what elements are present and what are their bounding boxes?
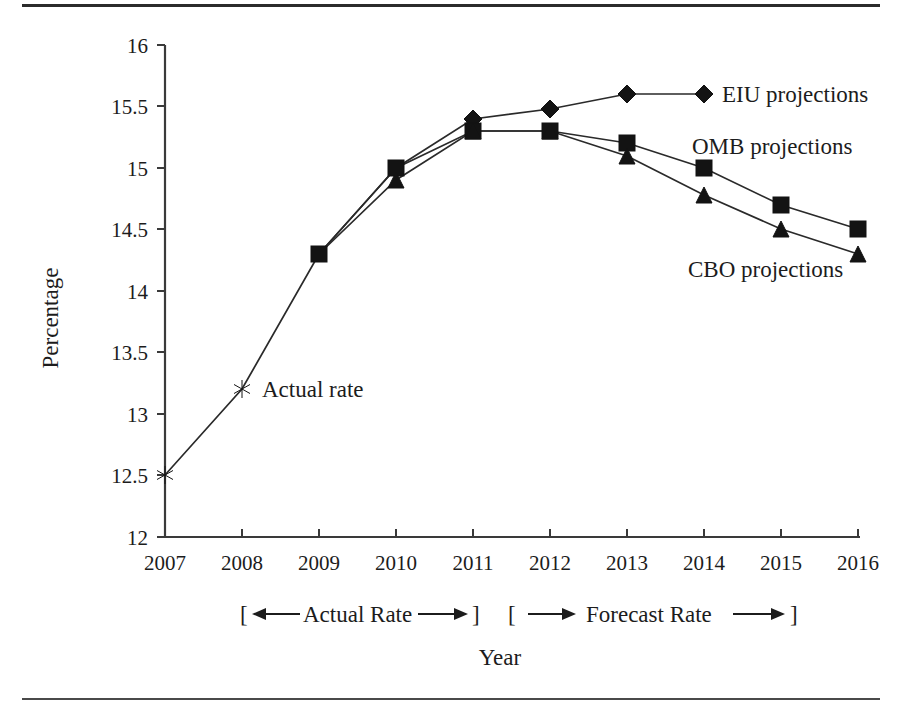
annotation-actual-open-bracket: [ — [240, 602, 248, 627]
figure-container: 16 15.5 15 14.5 14 13.5 13 12.5 12 2007 — [0, 0, 902, 713]
y-tick-label-16: 16 — [127, 34, 148, 58]
x-axis-title: Year — [479, 645, 522, 670]
series-line-eiu — [319, 94, 704, 254]
marker-diamond — [618, 85, 636, 103]
annotation-actual-rate-bracket: [ Actual Rate ] — [240, 602, 480, 627]
x-tick-label-2011: 2011 — [452, 551, 493, 575]
series-label-eiu: EIU projections — [722, 82, 868, 107]
y-tick-label-12: 12 — [127, 526, 148, 550]
y-axis-title: Percentage — [38, 268, 63, 369]
x-tick-label-2009: 2009 — [298, 551, 340, 575]
annotation-forecast-left-arrow-head — [562, 608, 576, 620]
marker-square — [850, 221, 866, 237]
x-tick-label-2007: 2007 — [144, 551, 186, 575]
x-tick-label-2012: 2012 — [529, 551, 571, 575]
annotation-forecast-right-arrow-head — [771, 608, 785, 620]
marker-square — [696, 160, 712, 176]
x-tick-label-2016: 2016 — [837, 551, 879, 575]
axes-group — [165, 45, 860, 537]
marker-square — [773, 197, 789, 213]
annotation-actual-label: Actual Rate — [303, 602, 412, 627]
line-chart: 16 15.5 15 14.5 14 13.5 13 12.5 12 2007 — [0, 0, 902, 713]
x-tick-marks — [165, 529, 858, 537]
x-tick-labels: 2007 2008 2009 2010 2011 2012 2013 2014 … — [144, 551, 879, 575]
annotation-actual-right-arrow-head — [454, 608, 468, 620]
y-tick-label-15.5: 15.5 — [111, 95, 148, 119]
series-label-omb: OMB projections — [692, 134, 852, 159]
x-tick-label-2010: 2010 — [375, 551, 417, 575]
annotation-forecast-rate-bracket: [ Forecast Rate ] — [508, 602, 798, 627]
y-tick-labels: 16 15.5 15 14.5 14 13.5 13 12.5 12 — [111, 34, 148, 550]
x-tick-label-2014: 2014 — [683, 551, 726, 575]
annotation-actual-left-arrow-head — [252, 608, 266, 620]
series-label-actual-rate: Actual rate — [262, 377, 364, 402]
marker-triangle — [696, 187, 712, 203]
x-tick-label-2015: 2015 — [760, 551, 802, 575]
y-tick-label-14: 14 — [127, 280, 149, 304]
y-tick-label-14.5: 14.5 — [111, 218, 148, 242]
y-tick-label-12.5: 12.5 — [111, 464, 148, 488]
marker-triangle — [773, 221, 789, 237]
annotation-actual-close-bracket: ] — [472, 602, 480, 627]
series-label-cbo: CBO projections — [688, 257, 843, 282]
markers-eiu — [464, 85, 713, 128]
y-tick-label-13: 13 — [127, 403, 148, 427]
marker-triangle — [850, 246, 866, 262]
annotation-forecast-open-bracket: [ — [508, 602, 516, 627]
marker-diamond — [695, 85, 713, 103]
annotation-forecast-label: Forecast Rate — [586, 602, 712, 627]
annotation-forecast-close-bracket: ] — [790, 602, 798, 627]
marker-diamond — [541, 100, 559, 118]
y-tick-marks — [157, 45, 165, 537]
series-line-actual-rate — [165, 254, 319, 475]
y-tick-label-13.5: 13.5 — [111, 341, 148, 365]
x-tick-label-2013: 2013 — [606, 551, 648, 575]
y-tick-label-15: 15 — [127, 157, 148, 181]
x-tick-label-2008: 2008 — [221, 551, 263, 575]
marker-square — [311, 246, 327, 262]
